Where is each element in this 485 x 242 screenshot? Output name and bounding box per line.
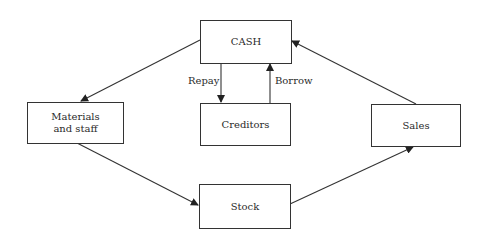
arrow-materials-to-stock	[77, 143, 198, 205]
node-sales-label: Sales	[402, 120, 429, 132]
node-sales: Sales	[371, 104, 461, 147]
node-creditors: Creditors	[200, 103, 291, 146]
node-cash: CASH	[200, 20, 292, 64]
arrow-cash-to-materials	[81, 40, 200, 101]
node-cash-label: CASH	[231, 36, 261, 48]
edge-label-borrow: Borrow	[275, 75, 313, 86]
arrow-sales-to-cash	[292, 41, 416, 104]
node-creditors-label: Creditors	[222, 119, 270, 131]
node-stock-label: Stock	[231, 201, 260, 213]
node-materials-and-staff: Materials and staff	[27, 102, 124, 144]
node-stock: Stock	[199, 184, 291, 229]
arrow-stock-to-sales	[290, 147, 413, 204]
node-materials-label: Materials and staff	[42, 111, 109, 135]
edge-label-repay: Repay	[188, 75, 219, 86]
